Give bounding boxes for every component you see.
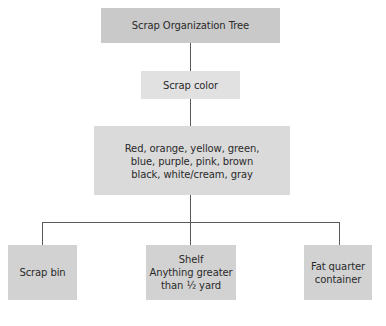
connector-list-to-leaves (190, 195, 191, 245)
leaf-fat-quarter-line-1: Fat quarter (311, 260, 365, 273)
root-node-label: Scrap Organization Tree (132, 19, 249, 32)
connector-root-to-color (190, 43, 191, 71)
scrap-color-label: Scrap color (163, 79, 218, 92)
color-list-node: Red, orange, yellow, green, blue, purple… (94, 126, 290, 195)
leaf-shelf: Shelf Anything greater than ½ yard (146, 245, 236, 300)
connector-color-to-list (190, 99, 191, 126)
leaf-scrap-bin-label: Scrap bin (19, 266, 65, 279)
color-list-line-3: black, white/cream, gray (125, 168, 260, 181)
root-node: Scrap Organization Tree (101, 8, 280, 43)
leaf-shelf-line-2: Anything greater (149, 266, 232, 279)
leaf-fat-quarter-container: Fat quarter container (304, 245, 372, 300)
connector-horizontal-branch (42, 222, 340, 223)
connector-drop-scrap-bin (42, 222, 43, 245)
leaf-fat-quarter-line-2: container (311, 273, 365, 286)
leaf-shelf-title: Shelf (149, 253, 232, 266)
connector-drop-fat-quarter (339, 222, 340, 245)
leaf-scrap-bin: Scrap bin (8, 245, 77, 300)
scrap-color-node: Scrap color (141, 71, 240, 99)
leaf-shelf-line-3: than ½ yard (149, 279, 232, 292)
color-list-line-2: blue, purple, pink, brown (125, 155, 260, 168)
color-list-line-1: Red, orange, yellow, green, (125, 142, 260, 155)
